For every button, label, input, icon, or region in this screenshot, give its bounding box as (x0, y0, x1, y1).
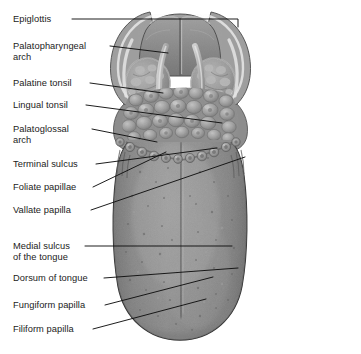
label-dorsum-of-tongue: Dorsum of tongue (13, 273, 88, 284)
label-vallate-papilla: Vallate papilla (13, 205, 71, 216)
label-palatopharyngeal-arch: Palatopharyngeal arch (13, 41, 86, 62)
label-fungiform-papilla: Fungiform papilla (13, 300, 85, 311)
label-filiform-papilla: Filiform papilla (13, 324, 74, 335)
label-palatine-tonsil: Palatine tonsil (13, 78, 72, 89)
label-lingual-tonsil: Lingual tonsil (13, 100, 68, 111)
label-foliate-papillae: Foliate papillae (13, 182, 76, 193)
label-palatoglossal-arch: Palatoglossal arch (13, 124, 69, 145)
lingual-tonsil (120, 84, 242, 144)
label-medial-sulcus: Medial sulcus of the tongue (13, 241, 70, 262)
label-epiglottis: Epiglottis (13, 14, 51, 25)
label-terminal-sulcus: Terminal sulcus (13, 159, 78, 170)
